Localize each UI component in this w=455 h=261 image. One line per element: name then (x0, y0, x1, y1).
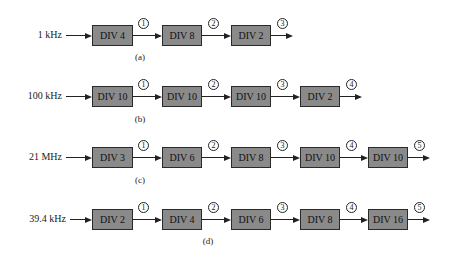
divider-block: DIV 8 (300, 209, 340, 230)
arrowhead-icon (85, 217, 92, 223)
divider-block: DIV 10 (162, 86, 202, 107)
divider-block: DIV 10 (368, 147, 408, 168)
divider-block: DIV 6 (162, 147, 202, 168)
arrowhead-icon (85, 94, 92, 100)
divider-block: DIV 3 (92, 147, 133, 168)
signal-line (202, 219, 225, 220)
signal-line (70, 219, 86, 220)
divider-block: DIV 16 (368, 209, 408, 230)
arrowhead-icon (155, 94, 162, 100)
divider-block: DIV 8 (231, 147, 271, 168)
arrowhead-icon (286, 33, 293, 39)
signal-line (202, 157, 225, 158)
output-node-marker: 1 (138, 202, 149, 213)
arrowhead-icon (361, 217, 368, 223)
arrowhead-icon (361, 155, 368, 161)
input-frequency-label: 21 MHz (2, 151, 62, 163)
arrowhead-icon (293, 94, 300, 100)
divider-block: DIV 4 (162, 209, 202, 230)
arrowhead-icon (155, 155, 162, 161)
signal-line (132, 157, 156, 158)
arrowhead-icon (423, 155, 430, 161)
input-frequency-label: 100 kHz (2, 90, 62, 102)
divider-block: DIV 10 (300, 147, 340, 168)
divider-block: DIV 2 (92, 209, 133, 230)
signal-line (132, 96, 156, 97)
output-node-marker: 2 (208, 202, 219, 213)
divider-block: DIV 2 (300, 86, 340, 107)
arrowhead-icon (355, 94, 362, 100)
output-node-marker: 4 (346, 79, 357, 90)
input-frequency-label: 1 kHz (2, 29, 62, 41)
divider-block: DIV 4 (92, 25, 133, 46)
output-node-marker: 2 (208, 140, 219, 151)
divider-block: DIV 8 (162, 25, 202, 46)
signal-line (340, 96, 356, 97)
output-node-marker: 3 (277, 202, 288, 213)
diagram-caption: (a) (125, 52, 155, 62)
arrowhead-icon (293, 155, 300, 161)
diagram-caption: (d) (193, 236, 223, 246)
output-node-marker: 3 (277, 140, 288, 151)
signal-line (340, 157, 362, 158)
divider-block: DIV 10 (231, 86, 271, 107)
signal-line (66, 35, 86, 36)
output-node-marker: 5 (414, 140, 425, 151)
output-node-marker: 2 (208, 18, 219, 29)
arrowhead-icon (224, 94, 231, 100)
arrowhead-icon (224, 155, 231, 161)
divider-block: DIV 10 (92, 86, 133, 107)
output-node-marker: 4 (346, 202, 357, 213)
signal-line (408, 157, 424, 158)
divider-block: DIV 6 (231, 209, 271, 230)
signal-line (271, 157, 294, 158)
signal-line (132, 35, 156, 36)
arrowhead-icon (155, 217, 162, 223)
arrowhead-icon (85, 33, 92, 39)
output-node-marker: 1 (138, 18, 149, 29)
divider-block: DIV 2 (231, 25, 271, 46)
signal-line (66, 96, 86, 97)
output-node-marker: 5 (414, 202, 425, 213)
arrowhead-icon (224, 33, 231, 39)
signal-line (66, 157, 86, 158)
output-node-marker: 3 (277, 79, 288, 90)
signal-line (202, 35, 225, 36)
signal-line (132, 219, 156, 220)
diagram-caption: (c) (125, 175, 155, 185)
signal-line (408, 219, 424, 220)
arrowhead-icon (85, 155, 92, 161)
signal-line (271, 35, 287, 36)
arrowhead-icon (155, 33, 162, 39)
signal-line (271, 219, 294, 220)
signal-line (340, 219, 362, 220)
arrowhead-icon (293, 217, 300, 223)
output-node-marker: 4 (346, 140, 357, 151)
output-node-marker: 1 (138, 140, 149, 151)
input-frequency-label: 39.4 kHz (6, 213, 66, 225)
arrowhead-icon (423, 217, 430, 223)
arrowhead-icon (224, 217, 231, 223)
signal-line (202, 96, 225, 97)
diagram-caption: (b) (125, 114, 155, 124)
output-node-marker: 2 (208, 79, 219, 90)
output-node-marker: 3 (277, 18, 288, 29)
output-node-marker: 1 (138, 79, 149, 90)
signal-line (271, 96, 294, 97)
